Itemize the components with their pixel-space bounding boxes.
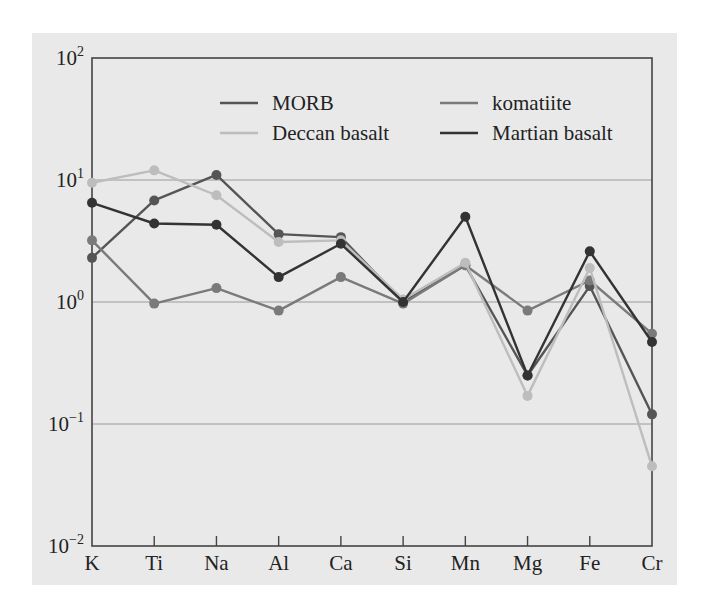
data-point — [211, 220, 221, 230]
data-point — [336, 239, 346, 249]
data-point — [211, 190, 221, 200]
data-point — [87, 253, 97, 263]
legend-label-martian-basalt: Martian basalt — [492, 121, 613, 145]
y-tick-label: 10−1 — [48, 410, 84, 436]
x-axis: KTiNaAlCaSiMnMgFeCr — [84, 536, 662, 575]
data-point — [523, 391, 533, 401]
data-point — [523, 306, 533, 316]
x-tick-label: Mn — [451, 551, 481, 575]
series-line — [92, 240, 652, 333]
data-point — [87, 178, 97, 188]
x-tick-label: Cr — [642, 551, 663, 575]
x-tick-label: K — [84, 551, 99, 575]
y-axis: 10210110010−110−2 — [48, 44, 84, 558]
data-point — [336, 272, 346, 282]
data-point — [647, 409, 657, 419]
x-tick-label: Ca — [329, 551, 353, 575]
x-tick-label: Al — [268, 551, 289, 575]
data-point — [149, 299, 159, 309]
data-point — [274, 306, 284, 316]
data-point — [149, 165, 159, 175]
y-tick-label: 100 — [56, 288, 84, 314]
x-tick-label: Si — [394, 551, 412, 575]
legend: MORB komatiite Deccan basalt Martian bas… — [220, 91, 613, 145]
data-point — [211, 170, 221, 180]
data-point — [274, 272, 284, 282]
data-point — [647, 337, 657, 347]
y-tick-label: 10−2 — [48, 532, 84, 558]
legend-label-komatiite: komatiite — [492, 91, 571, 115]
x-tick-label: Fe — [579, 551, 600, 575]
x-tick-label: Ti — [145, 551, 163, 575]
data-point — [398, 297, 408, 307]
series-morb — [87, 170, 657, 419]
data-point — [149, 195, 159, 205]
data-point — [460, 258, 470, 268]
gridlines — [92, 180, 652, 424]
data-point — [274, 237, 284, 247]
data-point — [149, 218, 159, 228]
data-point — [87, 235, 97, 245]
y-tick-label: 102 — [56, 44, 84, 70]
data-point — [523, 370, 533, 380]
legend-label-morb: MORB — [272, 91, 334, 115]
data-point — [211, 283, 221, 293]
series-deccan-basalt — [87, 165, 657, 471]
data-series — [87, 165, 657, 471]
legend-label-deccan-basalt: Deccan basalt — [272, 121, 389, 145]
y-tick-label: 101 — [56, 166, 84, 192]
data-point — [647, 461, 657, 471]
data-point — [460, 212, 470, 222]
x-tick-label: Na — [204, 551, 229, 575]
data-point — [585, 246, 595, 256]
data-point — [87, 198, 97, 208]
spider-diagram: KTiNaAlCaSiMnMgFeCr 10210110010−110−2 MO… — [0, 0, 719, 612]
x-tick-label: Mg — [513, 551, 543, 575]
data-point — [585, 263, 595, 273]
